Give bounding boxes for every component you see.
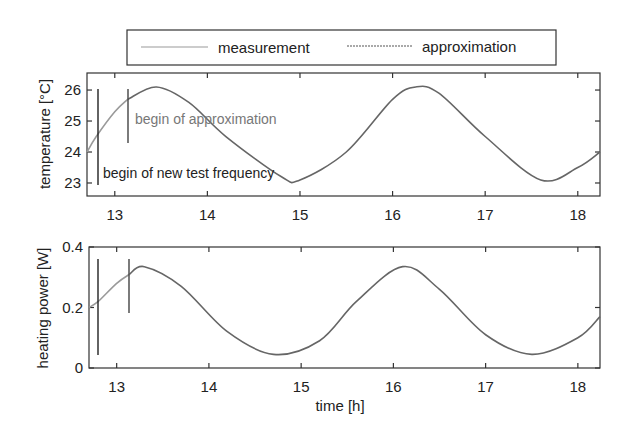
power-ytick-label: 0.2: [62, 299, 83, 316]
temperature-ylabel: temperature [°C]: [36, 79, 53, 189]
power-xtick-label: 16: [385, 378, 402, 395]
temperature-ytick-label: 25: [64, 112, 81, 129]
power-ytick-label: 0: [75, 359, 83, 376]
power-xtick-label: 14: [201, 378, 218, 395]
legend: measurement approximation: [127, 30, 556, 65]
temperature-ytick-label: 26: [64, 81, 81, 98]
temperature-panel: 131415161718 26252423 begin of approxima…: [36, 73, 600, 223]
power-xtick-label: 18: [570, 378, 587, 395]
temperature-xtick-label: 14: [199, 206, 216, 223]
temperature-xtick-label: 13: [106, 206, 123, 223]
power-measurement-line: [89, 274, 130, 307]
power-ytick-label: 0.4: [62, 238, 83, 255]
temperature-ytick-label: 24: [64, 143, 81, 160]
power-xtick-label: 17: [477, 378, 494, 395]
power-approximation-line: [130, 266, 600, 354]
approximation-annotation: begin of approximation: [135, 111, 277, 127]
power-yticks: 0.40.20: [62, 238, 600, 376]
temperature-xtick-label: 17: [477, 206, 494, 223]
temperature-ytick-label: 23: [64, 174, 81, 191]
temperature-xtick-label: 18: [569, 206, 586, 223]
power-xticks: 131415161718: [108, 247, 586, 395]
power-ylabel: heating power [W]: [34, 248, 51, 369]
power-xtick-label: 13: [108, 378, 125, 395]
power-axes-box: [89, 247, 600, 368]
frequency-annotation: begin of new test frequency: [103, 165, 274, 181]
temperature-measurement-line: [87, 99, 128, 152]
time-xlabel: time [h]: [315, 397, 364, 414]
heating-power-panel: 131415161718 0.40.20 heating power [W] t…: [34, 238, 600, 414]
temperature-xtick-label: 15: [292, 206, 309, 223]
power-xtick-label: 15: [293, 378, 310, 395]
legend-approximation-label: approximation: [422, 38, 516, 55]
temperature-xtick-label: 16: [384, 206, 401, 223]
chart-figure: measurement approximation 131415161718 2…: [0, 0, 627, 440]
legend-measurement-label: measurement: [218, 39, 311, 56]
